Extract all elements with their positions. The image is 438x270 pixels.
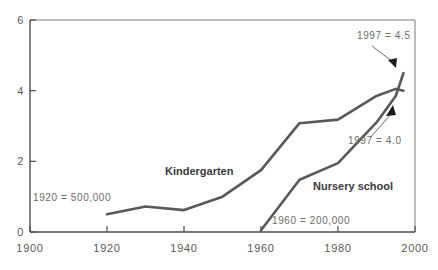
x-axis-label-1940: 1940: [170, 242, 197, 254]
annotation-kindergarten-start: 1920 = 500,000: [33, 192, 111, 203]
y-axis-label-4: 4: [17, 85, 24, 97]
x-axis-label-2000: 2000: [401, 242, 428, 254]
y-axis-label-6: 6: [17, 14, 24, 26]
series-label-nursery-school: Nursery school: [313, 180, 393, 192]
series-line-kindergarten: [107, 89, 403, 214]
x-axis-label-1920: 1920: [93, 242, 120, 254]
x-axis-label-1960: 1960: [247, 242, 274, 254]
x-axis-label-1900: 1900: [16, 242, 43, 254]
y-axis-label-2: 2: [17, 155, 24, 167]
x-axis-label-1980: 1980: [324, 242, 351, 254]
chart-canvas: 6 4 2 0 1900 1920 1940 1960 1980 2000 Ki…: [0, 0, 438, 270]
series-label-kindergarten: Kindergarten: [165, 165, 234, 177]
annotation-nursery-end: 1997 = 4.5: [357, 30, 411, 41]
annotation-kindergarten-end: 1997 = 4.0: [348, 135, 402, 146]
series-line-nursery-school: [261, 73, 403, 230]
y-axis-label-0: 0: [17, 226, 24, 238]
annotation-nursery-start: 1960 = 200,000: [272, 215, 350, 226]
line-chart: 6 4 2 0 1900 1920 1940 1960 1980 2000 Ki…: [0, 0, 438, 270]
